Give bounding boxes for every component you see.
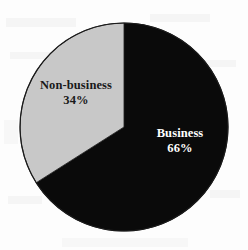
slice-label-non-business-name: Non-business <box>30 78 122 93</box>
slice-label-non-business: Non-business 34% <box>30 78 122 108</box>
pie-chart-figure: Non-business 34% Business 66% <box>0 0 248 250</box>
slice-label-business-percent: 66% <box>142 141 218 156</box>
pie-svg <box>0 0 248 250</box>
slice-label-non-business-percent: 34% <box>30 93 122 108</box>
slice-label-business-name: Business <box>142 126 218 141</box>
slice-label-business: Business 66% <box>142 126 218 156</box>
